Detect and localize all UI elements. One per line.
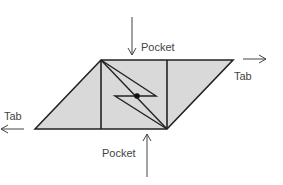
fold-diagram: Pocket Tab Tab Pocket — [0, 0, 283, 185]
pocket-bottom-label: Pocket — [102, 147, 136, 159]
tab-left-label: Tab — [4, 110, 22, 122]
pocket-bottom-arrow-icon — [143, 134, 151, 177]
tab-left-arrow-icon — [1, 125, 24, 133]
center-dot — [134, 93, 140, 99]
pocket-top-arrow-icon — [128, 17, 136, 55]
tab-right-label: Tab — [234, 70, 252, 82]
tab-right-arrow-icon — [243, 55, 266, 63]
pocket-top-label: Pocket — [141, 41, 175, 53]
